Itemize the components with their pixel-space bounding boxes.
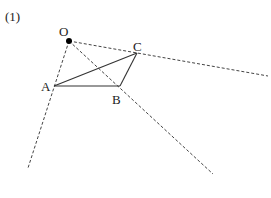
problem-label: (1) xyxy=(5,9,20,24)
geometry-diagram: (1) O A B C xyxy=(0,0,271,198)
label-a: A xyxy=(41,79,51,94)
ray-oc xyxy=(69,41,268,76)
ray-ob xyxy=(69,41,213,174)
label-b: B xyxy=(112,92,121,107)
label-c: C xyxy=(133,39,142,54)
label-o: O xyxy=(59,24,68,39)
ray-oa xyxy=(28,41,69,168)
segment-bc xyxy=(120,53,137,86)
segment-ca xyxy=(54,53,137,86)
dashed-rays xyxy=(28,41,268,174)
triangle-abc xyxy=(54,53,137,86)
